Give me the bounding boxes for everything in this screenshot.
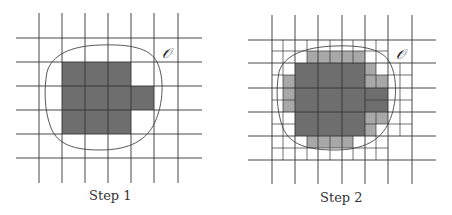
step2-panel bbox=[248, 15, 436, 184]
step2-caption: Step 2 bbox=[320, 190, 363, 205]
step2-set-label: 𝒪 bbox=[396, 46, 405, 63]
step2-coarse-grid bbox=[248, 15, 436, 184]
step1-caption: Step 1 bbox=[89, 188, 132, 203]
figure-canvas bbox=[0, 0, 452, 215]
step1-panel bbox=[16, 13, 202, 183]
step1-set-label: 𝒪 bbox=[162, 45, 171, 62]
